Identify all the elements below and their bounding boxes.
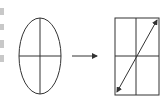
ellipse-shape <box>19 18 61 94</box>
rectangle-shape <box>115 18 159 95</box>
transformation-diagram <box>0 0 168 104</box>
